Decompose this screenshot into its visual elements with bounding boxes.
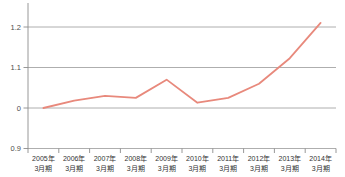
x-tick-label-period: 3月期: [34, 165, 52, 173]
x-tick-label-year: 2008年: [125, 154, 148, 163]
y-tick-label: 1.2: [11, 23, 21, 32]
y-tick-label: 1.1: [11, 63, 21, 72]
x-tick-label-period: 3月期: [250, 165, 268, 173]
line-chart: 1.21.100.92005年3月期2006年3月期2007年3月期2008年3…: [0, 0, 345, 177]
x-tick-label-period: 3月期: [158, 165, 176, 173]
x-tick-label-year: 2013年: [279, 154, 302, 163]
y-tick-label: 0: [17, 104, 21, 113]
x-tick-label-year: 2006年: [63, 154, 86, 163]
x-tick-label-period: 3月期: [188, 165, 206, 173]
series-line: [43, 23, 320, 108]
x-tick-label-year: 2009年: [155, 154, 178, 163]
x-tick-label-period: 3月期: [127, 165, 145, 173]
x-tick-label-year: 2010年: [186, 154, 209, 163]
x-tick-label-period: 3月期: [281, 165, 299, 173]
x-tick-label-year: 2012年: [248, 154, 271, 163]
x-tick-label-period: 3月期: [65, 165, 83, 173]
y-tick-label: 0.9: [11, 144, 21, 153]
x-tick-label-year: 2011年: [217, 154, 239, 163]
x-tick-label-year: 2007年: [94, 154, 117, 163]
x-tick-label-period: 3月期: [312, 165, 330, 173]
x-tick-label-period: 3月期: [96, 165, 114, 173]
x-tick-label-year: 2014年: [309, 154, 332, 163]
x-tick-label-year: 2005年: [32, 154, 55, 163]
x-tick-label-period: 3月期: [219, 165, 237, 173]
chart-canvas: 1.21.100.92005年3月期2006年3月期2007年3月期2008年3…: [0, 0, 345, 177]
